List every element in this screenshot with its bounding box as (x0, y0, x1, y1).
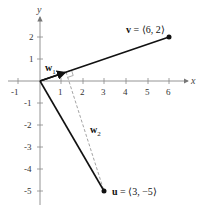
x-tick: 4 (123, 87, 128, 97)
x-tick: 1 (58, 87, 63, 97)
u-endpoint (102, 189, 107, 194)
x-tick: -1 (11, 87, 19, 97)
y-axis (37, 17, 43, 205)
x-axis-label: x (190, 75, 196, 86)
y-tick: -4 (24, 164, 32, 174)
x-axis (8, 78, 188, 84)
x-tick: 5 (145, 87, 150, 97)
x-tick: 6 (166, 87, 171, 97)
x-tick: 3 (101, 87, 106, 97)
y-tick: -1 (24, 98, 32, 108)
v-endpoint (167, 35, 172, 40)
w2-label: w2 (90, 124, 101, 138)
w1-label: w1 (45, 62, 56, 76)
y-tick: -3 (24, 142, 32, 152)
y-axis-label: y (36, 4, 42, 15)
u-label: u = ⟨3, −5⟩ (112, 186, 157, 197)
v-label: v = ⟨6, 2⟩ (126, 24, 165, 35)
u-vector (40, 81, 104, 191)
y-tick: 2 (29, 32, 34, 42)
x-tick: 2 (80, 87, 85, 97)
y-tick: 1 (29, 54, 34, 64)
vector-projection-diagram: x -1 1 2 3 4 5 6 y 2 1 -1 -2 -3 -4 -5 v … (0, 0, 197, 210)
y-tick: -5 (24, 186, 32, 196)
y-tick: -2 (24, 120, 32, 130)
